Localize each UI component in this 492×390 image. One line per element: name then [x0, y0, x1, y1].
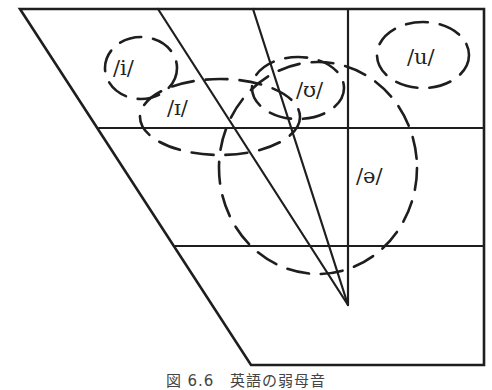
- vowel-region-I: [140, 79, 300, 155]
- figure-caption: 図 6.6 英語の弱母音: [0, 369, 492, 390]
- vowel-label-schwa: /ə/: [356, 164, 384, 188]
- vowel-label-I: /ɪ/: [167, 96, 189, 120]
- vowel-label-i: /i/: [113, 56, 135, 80]
- vowel-label-U: /ʊ/: [296, 78, 324, 102]
- vowel-label-u: /u/: [407, 45, 436, 69]
- slanted-line-mid: [253, 9, 348, 305]
- slanted-line-front: [158, 9, 348, 305]
